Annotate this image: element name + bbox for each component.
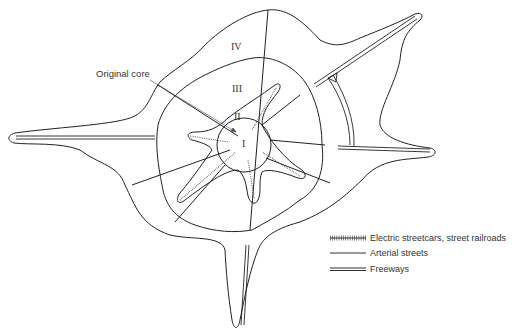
legend-label: Electric streetcars, street railroads	[370, 233, 506, 243]
double-line-icon	[330, 266, 366, 272]
legend-item-arterial: Arterial streets	[330, 248, 428, 258]
hatched-line-icon	[330, 235, 366, 241]
legend-label: Arterial streets	[370, 248, 428, 258]
zone-label-iv: IV	[231, 41, 242, 52]
legend-item-streetcars: Electric streetcars, street railroads	[330, 233, 506, 243]
legend-label: Freeways	[370, 264, 409, 274]
zone-label-i: I	[242, 138, 245, 149]
urban-growth-diagram	[0, 0, 519, 331]
single-line-icon	[330, 250, 366, 256]
zone-label-ii: II	[234, 111, 241, 122]
zone-label-iii: III	[232, 83, 242, 94]
legend-item-freeways: Freeways	[330, 264, 409, 274]
original-core-label: Original core	[96, 68, 150, 79]
